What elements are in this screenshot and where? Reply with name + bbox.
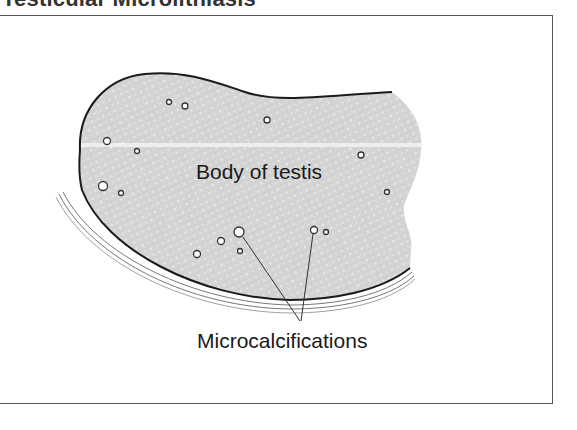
- calcification-dot: [104, 138, 111, 145]
- label-body-of-testis: Body of testis: [196, 160, 322, 184]
- calcification-dot: [194, 251, 201, 258]
- calcification-dot: [135, 149, 140, 154]
- calcification-dot: [358, 152, 364, 158]
- calcification-dot: [264, 117, 270, 123]
- calcification-dot: [99, 182, 108, 191]
- calcification-dot: [167, 100, 172, 105]
- calcification-dot: [218, 238, 225, 245]
- scan-band: [80, 143, 422, 147]
- calcification-dot: [385, 190, 390, 195]
- calcification-dot: [324, 230, 329, 235]
- testis-diagram: [0, 0, 577, 430]
- label-microcalcifications: Microcalcifications: [197, 329, 367, 353]
- testis-body-shape: [79, 73, 421, 300]
- calcification-dot: [234, 227, 244, 237]
- calcification-dot: [119, 191, 124, 196]
- calcification-dot: [311, 227, 318, 234]
- calcification-dot: [238, 249, 243, 254]
- calcification-dot: [182, 103, 188, 109]
